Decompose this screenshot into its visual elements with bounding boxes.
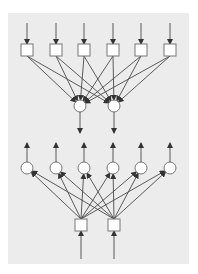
output-node-circle [78,162,90,174]
input-node-square [21,44,33,56]
code-node-square [108,219,120,231]
output-node-circle [107,162,119,174]
code-node-square [75,219,87,231]
diagram-panel [8,13,189,264]
network-diagram [0,0,198,274]
input-node-square [107,44,119,56]
output-node-circle [50,162,62,174]
output-node-circle [21,162,33,174]
hidden-node-circle [108,100,120,112]
output-node-circle [164,162,176,174]
input-node-square [78,44,90,56]
output-node-circle [135,162,147,174]
hidden-node-circle [74,100,86,112]
input-node-square [50,44,62,56]
input-node-square [135,44,147,56]
input-node-square [164,44,176,56]
